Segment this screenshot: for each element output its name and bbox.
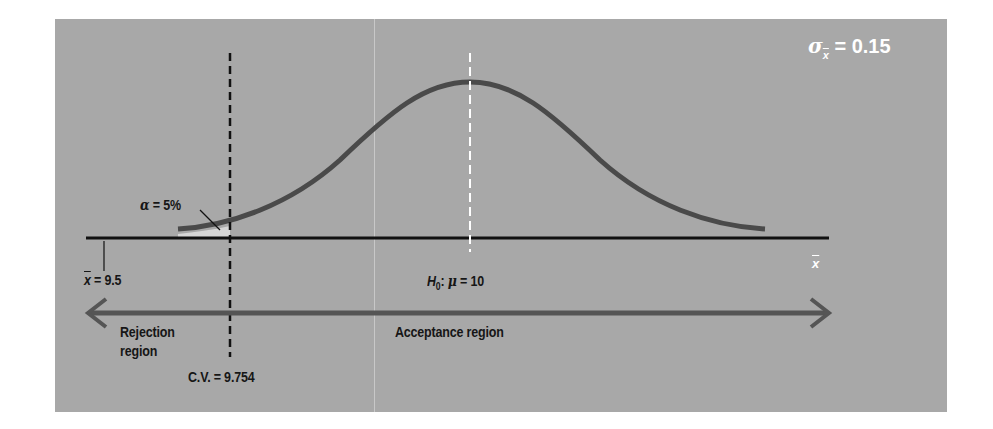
sample-mean-label: x = 9.5 <box>84 272 121 288</box>
h-symbol: H <box>427 273 436 289</box>
null-hypothesis-label: H0: μ = 10 <box>427 272 484 289</box>
sigma-subscript: x <box>823 49 829 61</box>
alpha-label: α = 5% <box>140 196 181 213</box>
x-axis-label: x <box>812 256 819 271</box>
alpha-symbol: α <box>140 196 149 213</box>
h-subscript: 0 <box>436 281 441 292</box>
diagram-graphics <box>0 0 993 429</box>
rejection-region-label-1: Rejection <box>120 324 175 340</box>
alpha-value: = 5% <box>149 197 180 213</box>
rejection-region-label-2: region <box>120 343 157 359</box>
normal-curve <box>178 82 765 229</box>
mu-symbol: μ <box>448 272 457 289</box>
acceptance-region-label: Acceptance region <box>395 324 504 340</box>
xbar-symbol: x <box>84 272 91 288</box>
sigma-value: = 0.15 <box>829 35 891 57</box>
xbar-value: = 9.5 <box>91 272 122 288</box>
std-error-label: σx = 0.15 <box>808 34 891 58</box>
h0-value: = 10 <box>457 273 484 289</box>
sigma-symbol: σ <box>808 34 823 58</box>
critical-value-label: C.V. = 9.754 <box>188 369 254 385</box>
